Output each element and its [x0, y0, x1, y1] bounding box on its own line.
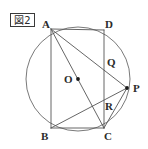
point-label-d: D	[105, 19, 113, 30]
point-label-a: A	[42, 19, 50, 30]
point-label-b: B	[41, 131, 48, 142]
figure-number-label: 図2	[14, 15, 30, 26]
point-label-q: Q	[107, 57, 116, 68]
geometry-figure: 図2 ADBCPQRO	[0, 0, 148, 149]
point-dot-p	[125, 86, 129, 90]
point-label-p: P	[133, 83, 140, 94]
point-label-r: R	[105, 101, 113, 112]
point-dot-o	[76, 77, 80, 81]
segment-AD	[51, 29, 104, 30]
point-label-o: O	[64, 74, 73, 85]
point-label-c: C	[104, 131, 112, 142]
figure-number-box: 図2	[10, 13, 35, 27]
